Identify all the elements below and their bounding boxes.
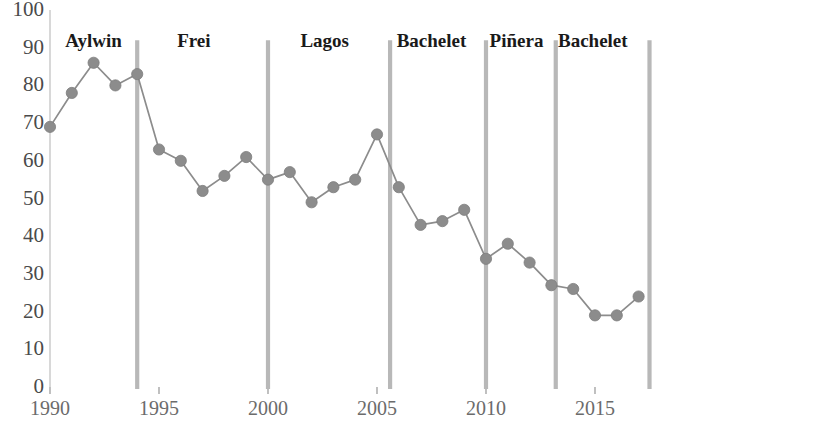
data-point-marker <box>611 310 622 321</box>
y-axis-tick-label: 50 <box>23 188 44 209</box>
y-axis-tick-label: 10 <box>23 338 44 359</box>
data-point-marker <box>66 87 77 98</box>
data-point-marker <box>88 57 99 68</box>
data-point-marker <box>132 68 143 79</box>
data-point-marker <box>350 174 361 185</box>
data-point-marker <box>197 185 208 196</box>
x-axis-tick-label: 2015 <box>535 398 655 418</box>
data-point-marker <box>459 204 470 215</box>
x-axis-tick-label: 1990 <box>0 398 110 418</box>
data-point-marker <box>371 129 382 140</box>
y-axis-tick-label: 100 <box>13 0 45 20</box>
y-axis-tick-label: 40 <box>23 225 44 246</box>
data-point-marker <box>44 121 55 132</box>
data-point-marker <box>393 182 404 193</box>
period-label-bachelet-5: Bachelet <box>503 31 683 50</box>
y-axis-tick-label: 30 <box>23 263 44 284</box>
data-point-marker <box>153 144 164 155</box>
y-axis-tick-label: 60 <box>23 150 44 171</box>
x-axis-tick-label: 2010 <box>426 398 546 418</box>
data-point-marker <box>568 283 579 294</box>
y-axis-tick-label: 80 <box>23 74 44 95</box>
approval-rating-chart: 0102030405060708090100199019952000200520… <box>0 0 818 425</box>
y-axis-tick-label: 70 <box>23 112 44 133</box>
data-point-marker <box>306 197 317 208</box>
data-point-marker <box>110 80 121 91</box>
x-axis-tick-label: 1995 <box>99 398 219 418</box>
data-point-marker <box>219 170 230 181</box>
x-axis-tick-label: 2000 <box>208 398 328 418</box>
y-axis-tick-label: 0 <box>34 376 45 397</box>
data-point-marker <box>262 174 273 185</box>
data-point-marker <box>524 257 535 268</box>
data-point-marker <box>633 291 644 302</box>
data-point-marker <box>546 280 557 291</box>
data-point-marker <box>175 155 186 166</box>
y-axis-tick-label: 20 <box>23 301 44 322</box>
chart-plot-area <box>0 0 818 425</box>
data-point-marker <box>480 253 491 264</box>
data-point-marker <box>502 238 513 249</box>
data-point-marker <box>284 167 295 178</box>
data-point-marker <box>328 182 339 193</box>
data-point-marker <box>415 219 426 230</box>
data-point-marker <box>437 216 448 227</box>
x-axis-tick-label: 2005 <box>317 398 437 418</box>
data-point-marker <box>241 151 252 162</box>
data-point-marker <box>589 310 600 321</box>
